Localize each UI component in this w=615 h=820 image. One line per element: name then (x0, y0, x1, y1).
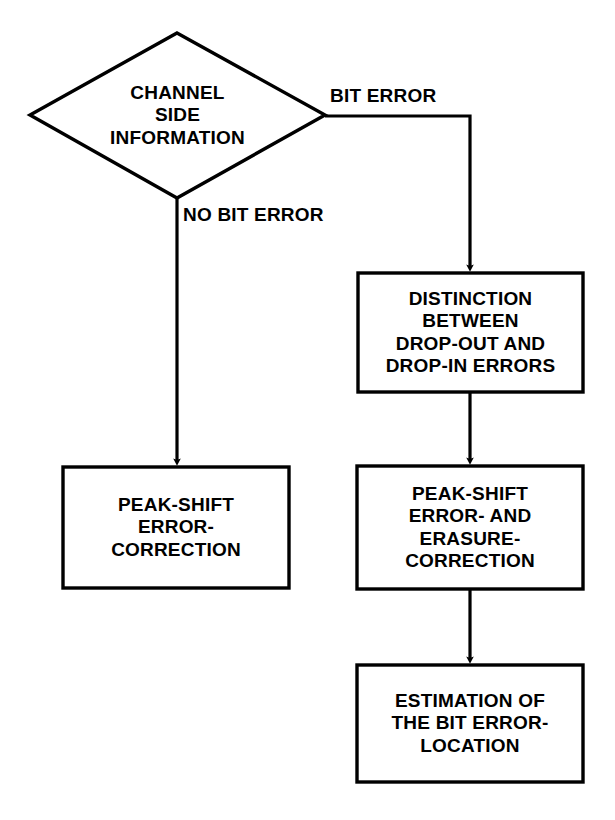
box-peak-shift-erasure-shape (357, 466, 583, 589)
box-estimation-shape (357, 665, 583, 782)
connector-bit-error (325, 116, 470, 268)
decision-diamond-shape (30, 33, 325, 198)
box-distinction-shape (358, 273, 583, 392)
flowchart-canvas: CHANNEL SIDE INFORMATION BIT ERROR NO BI… (0, 0, 615, 820)
edge-label-no-bit-error: NO BIT ERROR (183, 205, 324, 224)
box-peak-shift-error-correction-shape (63, 467, 289, 588)
flowchart-shapes (0, 0, 615, 820)
edge-label-bit-error: BIT ERROR (330, 86, 436, 105)
